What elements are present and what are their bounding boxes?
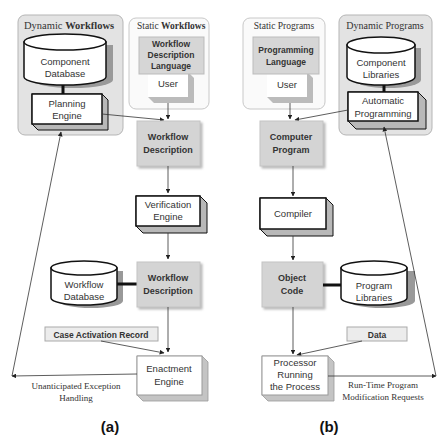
computer-program-label-2: Program: [272, 145, 309, 155]
workflow-description-2: [137, 262, 200, 307]
planning-engine-label-1: Planning: [49, 98, 86, 109]
wdl-label-1: Workflow: [152, 39, 190, 49]
programming-language: Programming Language: [253, 37, 319, 74]
exception-label-2: Handling: [59, 393, 93, 403]
workflow-description-1: [137, 121, 200, 166]
case-activation-record-label: Case Activation Record: [53, 330, 148, 340]
component-libraries-label-2: Libraries: [363, 69, 400, 80]
object-code: [262, 262, 323, 307]
verification-engine-label-2: Engine: [153, 211, 183, 222]
planning-engine: Planning Engine: [32, 94, 108, 130]
verification-engine: Verification Engine: [136, 196, 207, 233]
dynamic-workflows-title: Dynamic Workflows: [24, 20, 114, 31]
enactment-engine-label-1: Enactment: [146, 363, 192, 374]
panel-a-caption: (a): [101, 418, 119, 435]
enactment-engine-label-2: Engine: [154, 376, 184, 387]
dynamic-programs-group: Dynamic Programs Component Libraries Aut…: [339, 15, 432, 135]
panel-b: Static Programs User Programming Languag…: [243, 15, 436, 435]
processor: Processor Running the Process: [262, 356, 334, 401]
programming-language-label-1: Programming: [258, 45, 313, 55]
static-workflows-title: Static Workflows: [137, 21, 206, 31]
component-database: Component Database: [24, 34, 113, 88]
data-to-processor-arrow: [297, 341, 362, 355]
wd2-label-2: Description: [143, 286, 193, 296]
verification-engine-label-1: Verification: [145, 199, 191, 210]
automatic-programming-label-2: Programming: [354, 108, 411, 119]
program-user-label: User: [277, 79, 297, 90]
panel-b-caption: (b): [319, 418, 338, 435]
computer-program-label-1: Computer: [270, 132, 313, 142]
object-code-label-1: Object: [278, 273, 306, 283]
panel-a: Dynamic Workflows Component Database Pla…: [12, 15, 209, 435]
planning-engine-label-2: Engine: [52, 110, 82, 121]
workflow-user-box: User: [148, 72, 194, 103]
data-label: Data: [368, 330, 387, 340]
processor-label-3: the Process: [270, 381, 320, 392]
compiler: Compiler: [260, 198, 333, 236]
program-libraries-label-2: Libraries: [356, 292, 393, 303]
modification-label-2: Modification Requests: [342, 392, 424, 402]
programming-language-label-2: Language: [266, 57, 306, 67]
workflow-database-label-1: Workflow: [65, 279, 104, 290]
automatic-programming-label-1: Automatic: [362, 95, 404, 106]
compiler-label: Compiler: [274, 208, 312, 219]
car-to-enactment-arrow: [101, 341, 164, 353]
static-programs-group: Static Programs User Programming Languag…: [243, 18, 325, 109]
data-box: Data: [347, 327, 407, 341]
component-libraries: Component Libraries: [347, 37, 421, 88]
program-libraries-label-1: Program: [356, 280, 393, 291]
component-libraries-label-1: Component: [356, 57, 405, 68]
object-code-label-2: Code: [281, 286, 304, 296]
case-activation-record: Case Activation Record: [45, 327, 158, 341]
modification-label-1: Run-Time Program: [348, 380, 418, 390]
component-database-label-2: Database: [45, 68, 86, 79]
workflow-database-label-2: Database: [64, 291, 105, 302]
static-workflows-group: Static Workflows User Workflow Descripti…: [129, 18, 209, 109]
wd1-label-1: Workflow: [148, 132, 189, 142]
computer-program: [260, 121, 323, 166]
workflow-database: Workflow Database: [51, 261, 123, 308]
enactment-engine: Enactment Engine: [137, 356, 208, 401]
component-database-label-1: Component: [40, 56, 89, 67]
workflow-user-label: User: [158, 78, 178, 89]
workflow-description-language: Workflow Description Language: [139, 37, 204, 74]
exception-label-1: Unanticipated Exception: [31, 381, 121, 391]
wdl-label-2: Description: [148, 50, 195, 60]
wd1-label-2: Description: [143, 145, 193, 155]
program-libraries: Program Libraries: [341, 261, 415, 308]
dynamic-workflows-group: Dynamic Workflows Component Database Pla…: [18, 15, 123, 135]
static-programs-title: Static Programs: [254, 21, 315, 31]
program-user-box: User: [267, 72, 313, 103]
processor-label-1: Processor: [274, 357, 317, 368]
wdl-label-3: Language: [151, 61, 191, 71]
wd2-label-1: Workflow: [148, 273, 189, 283]
processor-label-2: Running: [277, 369, 312, 380]
diagram-canvas: Dynamic Workflows Component Database Pla…: [0, 0, 448, 447]
enactment-to-exception-arrow: [12, 374, 137, 376]
dynamic-programs-title: Dynamic Programs: [346, 20, 424, 31]
automatic-programming: Automatic Programming: [348, 92, 426, 129]
